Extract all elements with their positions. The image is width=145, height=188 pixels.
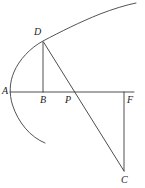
figure-canvas	[0, 0, 145, 188]
point-label-F: F	[127, 95, 133, 105]
point-label-P: P	[65, 95, 71, 105]
point-label-D: D	[34, 27, 41, 37]
point-label-B: B	[40, 95, 46, 105]
parabola-arc	[10, 3, 136, 143]
geometry-figure: A D B P F C	[0, 0, 145, 188]
point-label-A: A	[2, 86, 8, 96]
segment-DC	[44, 42, 125, 171]
point-label-C: C	[121, 175, 128, 185]
